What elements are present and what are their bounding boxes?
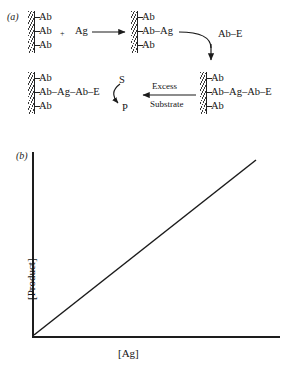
solid-phase-support-step4 — [28, 72, 35, 114]
x-axis — [32, 336, 280, 338]
data-line-product-vs-antigen — [34, 160, 256, 335]
solid-phase-support-step3 — [200, 72, 207, 114]
y-axis — [32, 152, 34, 337]
ligand-complex-label: Ab–Ag–Ab–E — [211, 87, 272, 98]
solid-phase-support-step2 — [131, 11, 138, 53]
ligand-complex-label: Ab–Ag — [142, 26, 173, 37]
ligand-label: Ab — [211, 73, 224, 84]
ligand-label: Ab — [211, 101, 224, 112]
arrow-label-excess: Excess — [152, 82, 177, 91]
ligand-label: Ab — [39, 101, 52, 112]
conjugate-label: Ab–E — [218, 29, 243, 40]
product-label: P — [122, 103, 128, 114]
arrow-label-substrate: Substrate — [150, 100, 184, 109]
antigen-label: Ag — [75, 26, 88, 37]
ligand-label: Ab — [39, 40, 52, 51]
curved-arrow-path — [179, 32, 211, 48]
panel-a-label: (a) — [7, 11, 19, 22]
plot-line-layer — [0, 0, 293, 376]
substrate-label: S — [119, 75, 125, 86]
ligand-label: Ab — [142, 40, 155, 51]
arrow-layer — [0, 0, 293, 376]
ligand-label: Ab — [142, 12, 155, 23]
plus-sign: + — [60, 29, 65, 38]
figure-container: (a) Ab Ab Ab + Ag Ab Ab–Ag Ab Ab–E Ab Ab… — [0, 0, 293, 376]
y-axis-label: [Product] — [25, 258, 37, 300]
panel-b-label: (b) — [16, 150, 28, 161]
x-axis-label: [Ag] — [118, 347, 139, 359]
solid-phase-support-step1 — [28, 11, 35, 53]
substrate-to-product-arrow — [114, 84, 120, 103]
ligand-label: Ab — [39, 26, 52, 37]
ligand-label: Ab — [39, 73, 52, 84]
ligand-complex-label: Ab–Ag–Ab–E — [39, 87, 100, 98]
ligand-label: Ab — [39, 12, 52, 23]
